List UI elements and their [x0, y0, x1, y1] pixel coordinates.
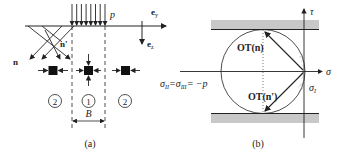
failure-envelope-top	[211, 20, 319, 29]
caption-b: (b)	[252, 138, 264, 150]
panel-b: σ τ OT(n) OT(n') σI σII=σIII= −p (b)	[160, 6, 332, 150]
zone-label-right: 2	[119, 95, 132, 108]
caption-a: (a)	[84, 138, 95, 150]
stress-element-center	[76, 54, 101, 86]
stress-element-left	[38, 66, 68, 75]
normal-n-label: n	[13, 57, 18, 67]
normal-n-prime-label: n'	[60, 39, 68, 49]
distributed-load-arrows	[72, 4, 105, 25]
axis-ez-label: ez	[147, 39, 154, 50]
tau-axis-label: τ	[310, 6, 314, 17]
stress-element-right	[112, 66, 140, 75]
sigma-i-label: σI	[309, 82, 317, 94]
principal-stress-equation: σII=σIII= −p	[160, 78, 208, 90]
svg-text:2: 2	[123, 97, 128, 107]
ot-n-label: OT(n)	[237, 42, 264, 54]
sigma-axis-label: σ	[326, 66, 332, 77]
zone-label-center: 1	[82, 95, 95, 108]
figure-canvas: ey ez p n n'	[0, 0, 347, 158]
svg-text:2: 2	[53, 97, 58, 107]
ot-n-prime-label: OT(n')	[248, 91, 277, 103]
load-p-label: p	[109, 9, 115, 20]
ot-n-vector	[265, 32, 303, 70]
axis-ey-label: ey	[151, 7, 158, 18]
svg-text:1: 1	[86, 97, 91, 107]
width-b-label: B	[85, 108, 91, 119]
zone-label-left: 2	[49, 95, 62, 108]
panel-a: ey ez p n n'	[13, 4, 166, 150]
failure-envelope-bottom	[211, 114, 319, 123]
